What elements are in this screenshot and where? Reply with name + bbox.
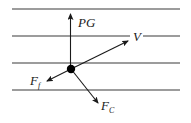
force-diagram: PG V Ff FC xyxy=(0,0,191,123)
ff-label: Ff xyxy=(29,73,42,90)
v-label: V xyxy=(133,29,143,44)
vector-pg: PG xyxy=(71,14,96,69)
pg-label: PG xyxy=(77,15,96,30)
ff-label-subscript: f xyxy=(38,81,42,90)
fc-label-subscript: C xyxy=(109,106,115,115)
vector-fc: FC xyxy=(71,69,115,115)
vector-ff: Ff xyxy=(29,69,71,90)
v-arrow xyxy=(71,41,128,69)
fc-label: FC xyxy=(100,98,115,115)
particle-dot xyxy=(67,65,75,73)
fc-arrow xyxy=(71,69,98,103)
